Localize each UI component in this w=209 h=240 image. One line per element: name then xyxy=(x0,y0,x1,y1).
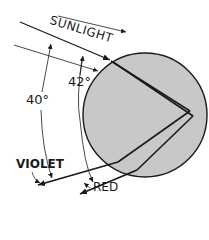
violet-leader xyxy=(32,172,40,183)
raindrop xyxy=(83,53,207,177)
red-leader xyxy=(84,183,90,188)
angle-42-label: 42° xyxy=(68,75,91,88)
angle-arc-40-top xyxy=(42,44,51,92)
angle-40-label: 40° xyxy=(26,93,49,106)
violet-label: VIOLET xyxy=(16,158,64,170)
sunlight-ray-lower xyxy=(14,45,98,71)
red-label: RED xyxy=(93,181,118,193)
